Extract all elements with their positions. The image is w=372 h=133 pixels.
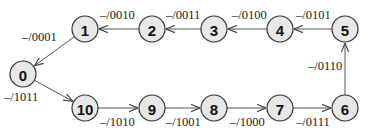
edge-label: –/1010 xyxy=(99,115,135,129)
state-label: 5 xyxy=(341,22,349,39)
state-node-9: 9 xyxy=(139,95,165,121)
edge-label: –/1001 xyxy=(165,115,201,129)
state-label: 8 xyxy=(210,101,218,118)
arrow-icon xyxy=(34,80,72,101)
nodes-layer: 012345678910 xyxy=(10,16,358,121)
state-diagram: 012345678910 –/1011–/1010–/1001–/1000–/0… xyxy=(0,0,372,133)
edge-label: –/0110 xyxy=(307,59,342,73)
state-label: 9 xyxy=(148,101,156,118)
edge-label: –/0001 xyxy=(21,30,57,44)
state-label: 6 xyxy=(341,101,349,118)
state-label: 3 xyxy=(210,22,218,39)
state-label: 0 xyxy=(19,67,27,84)
state-label: 4 xyxy=(276,22,285,39)
state-node-7: 7 xyxy=(267,95,293,121)
edge-label: –/0111 xyxy=(295,115,330,129)
state-label: 7 xyxy=(276,101,284,118)
edge-label: –/0010 xyxy=(99,8,135,22)
state-node-0: 0 xyxy=(10,61,36,87)
state-node-8: 8 xyxy=(201,95,227,121)
edge-0-to-10 xyxy=(34,80,72,101)
state-label: 2 xyxy=(148,22,156,39)
state-node-4: 4 xyxy=(267,16,293,42)
edge-label: –/1000 xyxy=(229,115,265,129)
state-node-1: 1 xyxy=(72,16,98,42)
edge-label: –/0100 xyxy=(231,8,267,22)
state-label: 1 xyxy=(81,22,89,39)
edge-label: –/1011 xyxy=(3,90,38,104)
edge-label: –/0101 xyxy=(295,8,331,22)
state-node-10: 10 xyxy=(72,95,98,121)
state-label: 10 xyxy=(77,101,94,118)
state-node-3: 3 xyxy=(201,16,227,42)
state-node-2: 2 xyxy=(139,16,165,42)
edge-label: –/0011 xyxy=(165,8,200,22)
state-node-6: 6 xyxy=(332,95,358,121)
state-node-5: 5 xyxy=(332,16,358,42)
